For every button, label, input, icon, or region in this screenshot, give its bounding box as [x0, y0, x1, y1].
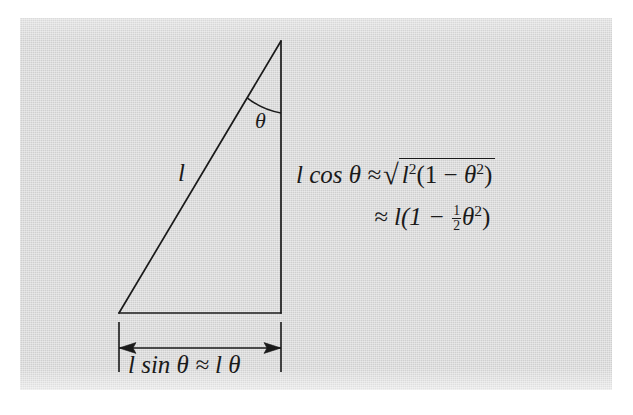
radicand: l2(1 − θ2): [399, 158, 496, 187]
base-dimension-label: l sin θ ≈ l θ: [128, 352, 241, 377]
radicand-l: l: [402, 161, 409, 188]
radical-sign: √: [383, 160, 399, 189]
hypotenuse-length-label: l: [178, 160, 185, 185]
equation-lhs: l cos θ ≈: [296, 161, 381, 188]
second-line-theta: θ: [462, 203, 474, 230]
equation-approximation-line: ≈ l(1 − 12θ2): [374, 203, 490, 233]
angle-theta-label: θ: [255, 110, 266, 132]
second-line-prefix: ≈ l(1 −: [374, 203, 451, 230]
equation-cosine-line: l cos θ ≈√l2(1 − θ2): [296, 158, 495, 188]
triangle-drawing: [0, 0, 633, 415]
triangle-hypotenuse: [119, 41, 281, 313]
second-line-theta-exponent: 2: [474, 202, 482, 219]
radicand-theta: θ: [464, 161, 476, 188]
fraction-denominator: 2: [452, 219, 461, 233]
figure-container: l θ l cos θ ≈√l2(1 − θ2) ≈ l(1 − 12θ2) l…: [0, 0, 633, 415]
one-half-fraction: 12: [452, 204, 461, 233]
fraction-numerator: 1: [452, 204, 461, 219]
radical-group: √l2(1 − θ2): [381, 158, 495, 188]
radicand-close-paren: ): [484, 161, 492, 188]
second-line-close-paren: ): [482, 203, 490, 230]
radicand-l-exponent: 2: [409, 160, 417, 177]
radicand-theta-exponent: 2: [476, 160, 484, 177]
radicand-open-paren: (1 −: [417, 161, 464, 188]
